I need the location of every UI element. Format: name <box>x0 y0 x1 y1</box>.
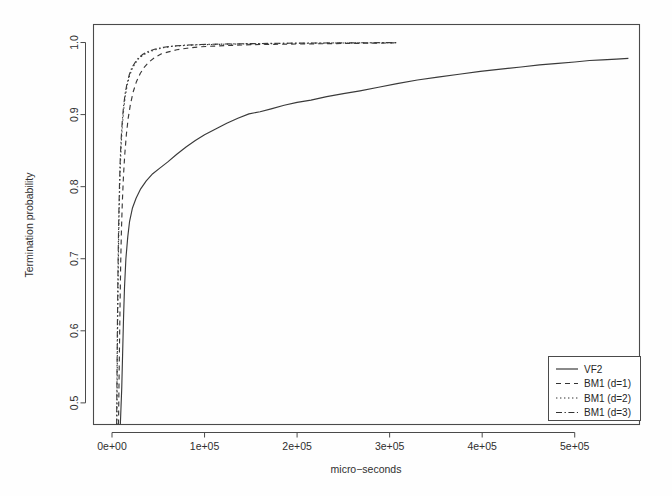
legend-label: VF2 <box>584 364 603 375</box>
y-tick-label: 0.6 <box>68 323 80 338</box>
termination-probability-plot: 0e+001e+052e+053e+054e+055e+05 0.50.60.7… <box>0 0 672 496</box>
x-tick-label: 0e+00 <box>97 440 127 452</box>
legend-label: BM1 (d=3) <box>584 407 631 418</box>
legend-label: BM1 (d=2) <box>584 393 631 404</box>
x-tick-label: 3e+05 <box>375 440 405 452</box>
x-axis-title: micro−seconds <box>331 463 402 475</box>
y-tick-label: 0.5 <box>68 395 80 410</box>
chart-figure: 0e+001e+052e+053e+054e+055e+05 0.50.60.7… <box>0 0 672 496</box>
x-tick-label: 4e+05 <box>467 440 497 452</box>
x-axis: 0e+001e+052e+053e+054e+055e+05 <box>97 433 589 452</box>
x-tick-label: 1e+05 <box>190 440 220 452</box>
y-axis: 0.50.60.70.80.91.0 <box>68 35 85 410</box>
y-axis-title: Termination probability <box>23 172 35 278</box>
x-tick-label: 5e+05 <box>560 440 590 452</box>
y-tick-label: 1.0 <box>68 35 80 50</box>
series-line <box>117 43 397 425</box>
chart-legend: VF2BM1 (d=1)BM1 (d=2)BM1 (d=3) <box>549 357 641 421</box>
series-line <box>117 43 397 425</box>
y-tick-label: 0.8 <box>68 179 80 194</box>
x-tick-label: 2e+05 <box>282 440 312 452</box>
y-tick-label: 0.9 <box>68 107 80 122</box>
series-line <box>118 43 394 425</box>
y-tick-label: 0.7 <box>68 251 80 266</box>
legend-label: BM1 (d=1) <box>584 378 631 389</box>
